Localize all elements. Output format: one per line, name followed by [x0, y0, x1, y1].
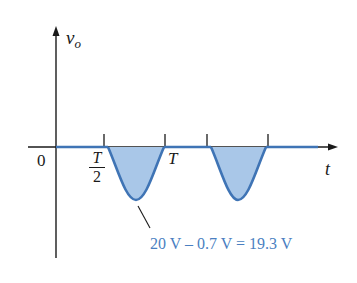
tick-marks [104, 134, 268, 147]
y-axis-label-subscript: o [74, 36, 81, 51]
annotation-leader-line [138, 206, 150, 228]
x-axis-arrow-icon [328, 144, 338, 151]
waveform-diagram: vo 0 T 2 T t 20 V – 0.7 V = 19.3 V [0, 0, 357, 283]
half-period-numerator: T [89, 150, 105, 166]
waveform-lobe-2 [211, 147, 266, 200]
half-period-denominator: 2 [89, 169, 105, 185]
origin-label: 0 [37, 152, 46, 169]
y-axis [53, 26, 60, 258]
y-axis-arrow-icon [53, 26, 60, 36]
x-axis-label: t [325, 160, 330, 178]
period-label: T [168, 150, 177, 167]
peak-voltage-annotation: 20 V – 0.7 V = 19.3 V [150, 236, 292, 252]
waveform-lobe-1 [108, 147, 164, 200]
y-axis-label: vo [66, 28, 81, 50]
half-period-label: T 2 [89, 150, 105, 185]
